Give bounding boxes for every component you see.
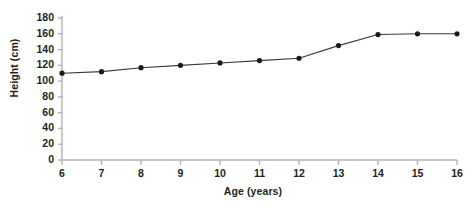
data-point-marker [375, 32, 380, 37]
line-chart: Height (cm) Age (years) 0204060801001201… [0, 0, 474, 209]
data-point-marker [217, 60, 222, 65]
data-point-marker [296, 56, 301, 61]
data-point-marker [415, 31, 420, 36]
data-point-marker [138, 65, 143, 70]
data-point-marker [178, 63, 183, 68]
data-point-marker [336, 43, 341, 48]
data-series-line [62, 34, 457, 73]
plot-area [0, 0, 474, 209]
data-point-marker [257, 58, 262, 63]
data-point-marker [454, 31, 459, 36]
data-point-marker [99, 69, 104, 74]
data-point-marker [59, 71, 64, 76]
